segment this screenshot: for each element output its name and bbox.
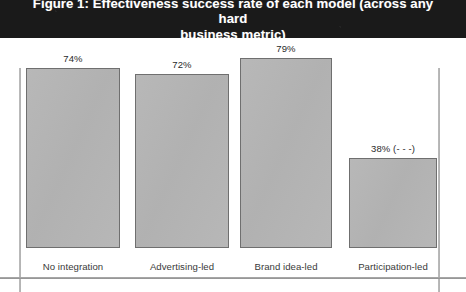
bar-group-participation-led: 38% (- - -) Participation-led (349, 158, 437, 248)
bar-value-label: 79% (276, 43, 295, 54)
figure-title-banner: Figure 1: Effectiveness success rate of … (0, 0, 466, 38)
bar-category-label: Advertising-led (150, 261, 214, 272)
bar-category-label: Brand idea-led (254, 261, 317, 272)
bar-group-no-integration: 74% No integration (26, 68, 120, 248)
bar-group-advertising-led: 72% Advertising-led (135, 74, 229, 248)
bar-value-label: 38% (- - -) (371, 143, 415, 154)
bar-rect[interactable] (26, 68, 120, 248)
bar-group-brand-idea-led: 79% Brand idea-led (240, 58, 332, 248)
bar-rect[interactable] (240, 58, 332, 248)
bar-category-label: Participation-led (358, 261, 428, 272)
bar-value-label: 72% (172, 59, 191, 70)
bar-rect[interactable] (349, 158, 437, 248)
bar-category-label: No integration (43, 261, 103, 272)
bar-rect[interactable] (135, 74, 229, 248)
chart-plot-area: 74% No integration 72% Advertising-led 7… (0, 38, 466, 285)
bar-series: 74% No integration 72% Advertising-led 7… (0, 38, 466, 285)
bar-value-label: 74% (63, 53, 82, 64)
figure-title-line-1: Figure 1: Effectiveness success rate of … (26, 0, 440, 27)
page-title: Figure 1: Effectiveness success rate of … (26, 0, 440, 42)
